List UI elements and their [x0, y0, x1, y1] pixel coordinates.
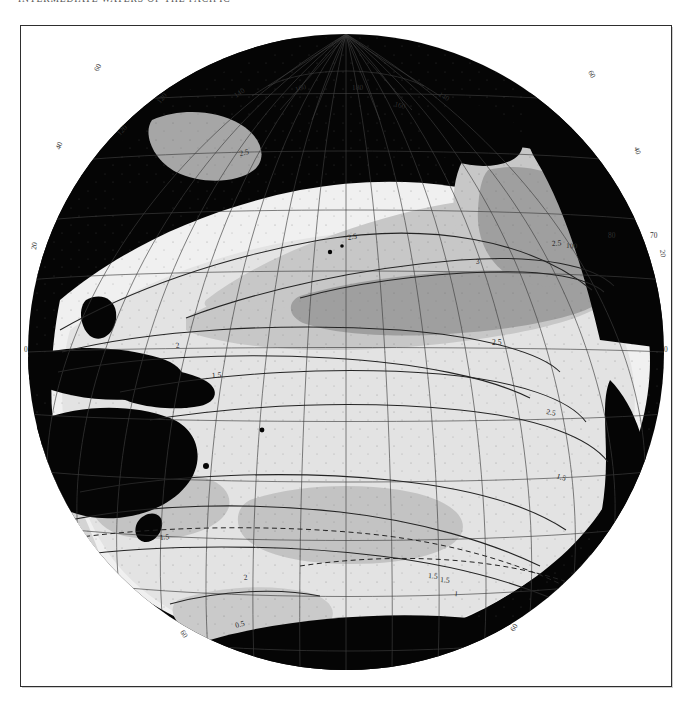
island-dot: [260, 428, 265, 433]
contour-label: 2.5: [347, 231, 358, 242]
graticule-label: 70: [650, 231, 658, 240]
graticule-label: 60: [586, 69, 598, 80]
contour-label: 1.5: [159, 532, 170, 542]
island-dot: [203, 463, 209, 469]
pacific-contour-map: 60 120 140 160 180 160 140 60 40 20 0 40…: [0, 0, 693, 706]
contour-label: 2.5: [492, 338, 502, 347]
contour-label: 1.5: [440, 575, 450, 585]
graticule-label: 80: [608, 231, 616, 240]
graticule-label: 0: [24, 345, 28, 354]
graticule-label: 180: [352, 83, 364, 92]
graticule-label: 100: [566, 241, 578, 250]
island-dot: [184, 404, 188, 408]
contour-label: 2.5: [552, 238, 562, 248]
graticule-label: 60: [178, 628, 190, 639]
graticule-label: 20: [658, 249, 668, 258]
island-dot: [340, 244, 344, 248]
graticule-label: 60: [92, 62, 104, 73]
graticule-label: 0: [664, 345, 668, 354]
island-dot: [328, 250, 332, 254]
graticule-label: 40: [53, 140, 64, 150]
plate-page: INTERMEDIATE WATERS OF THE PACIFIC: [0, 0, 693, 706]
contour-label: 1.5: [428, 571, 438, 581]
graticule-label: 20: [29, 241, 39, 250]
graticule-label: 40: [632, 146, 643, 156]
map-stage: 60 120 140 160 180 160 140 60 40 20 0 40…: [0, 0, 693, 706]
contour-label: 1.5: [212, 370, 222, 380]
contour-label: 2.5: [546, 407, 557, 418]
